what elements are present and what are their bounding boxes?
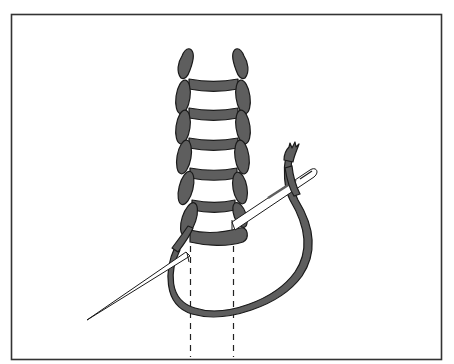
frame-border xyxy=(12,15,442,360)
stitch-rung-5 xyxy=(192,200,235,212)
stitch-rung-2 xyxy=(189,108,238,120)
stitch-rung-3 xyxy=(189,138,238,150)
stitch-rung-1 xyxy=(189,79,238,91)
stitch-illustration: Ladder stitch illustration xyxy=(0,0,454,364)
stitch-rung-4 xyxy=(190,168,237,180)
